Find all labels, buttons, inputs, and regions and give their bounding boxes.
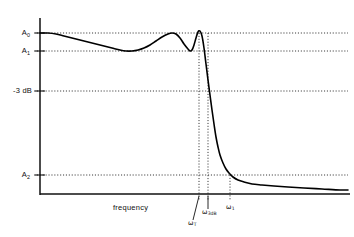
x-label-omega-t: ωT [188,219,196,227]
x-label-omega-1-subscript: 1 [232,206,235,211]
axes [40,18,350,195]
leader-line-wT [193,196,199,220]
y-label-A0-subscript: 0 [27,32,30,38]
figure-frequency-response: A0 A1 -3 dB A2 frequency ωT ω3dB ω1 [0,0,354,237]
y-label-A1-subscript: 1 [27,50,30,56]
plot-canvas [0,0,354,237]
y-label-A0: A0 [8,28,30,38]
x-label-omega-3db: ω3dB [202,208,217,216]
y-label-A2: A2 [8,170,30,180]
y-label-A2-subscript: 2 [27,174,30,180]
y-label-minus-3db: -3 dB [0,86,32,96]
reference-level-lines [34,33,348,175]
x-axis-title: frequency [113,203,148,212]
x-label-omega-1: ω1 [226,203,235,211]
x-label-omega-3db-subscript: 3dB [208,211,217,216]
y-label-minus-3db-text: -3 dB [13,86,32,95]
y-label-A1: A1 [8,46,30,56]
x-label-omega-t-subscript: T [194,222,197,227]
response-curve [40,31,348,190]
